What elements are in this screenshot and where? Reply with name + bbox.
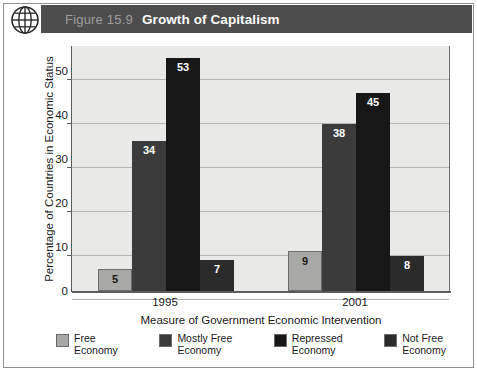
y-tick-mark-30	[67, 167, 72, 168]
plot-area: 5 34 53 7 9 38 45 8	[72, 46, 450, 291]
bar-2001-repressed: 45	[356, 93, 390, 291]
bar-label: 8	[390, 259, 424, 271]
figure-number: Figure 15.9	[65, 12, 133, 27]
x-axis-line	[72, 291, 451, 293]
legend-item-mostly-free-economy: Mostly Free Economy	[159, 333, 232, 359]
bar-label: 5	[99, 273, 131, 285]
y-tick-mark-50	[67, 79, 72, 80]
gridline-30	[72, 167, 449, 168]
x-tick-label-2001: 2001	[315, 296, 395, 308]
bar-label: 34	[132, 144, 166, 156]
y-tick-label: 10	[46, 241, 68, 253]
y-tick-label: 20	[46, 197, 68, 209]
y-tick-mark-20	[67, 211, 72, 212]
y-tick-label: 50	[46, 65, 68, 77]
legend-swatch-icon	[384, 334, 397, 347]
bar-label: 45	[356, 96, 390, 108]
figure-title: Growth of Capitalism	[142, 12, 280, 27]
bar-label: 38	[322, 127, 356, 139]
bar-2001-not-free: 8	[390, 256, 424, 291]
legend-swatch-icon	[159, 334, 172, 347]
legend-item-repressed-economy: Repressed Economy	[274, 333, 343, 359]
gridline-40	[72, 123, 449, 124]
bar-label: 7	[200, 263, 234, 275]
bar-label: 9	[289, 255, 321, 267]
legend-label: Not Free Economy	[402, 333, 446, 356]
legend-item-free-economy: Free Economy	[56, 333, 118, 359]
bar-1995-mostly-free: 34	[132, 141, 166, 291]
y-tick-label: 40	[46, 109, 68, 121]
bar-1995-not-free: 7	[200, 260, 234, 291]
x-axis-title: Measure of Government Economic Intervent…	[72, 314, 450, 326]
y-tick-label: 30	[46, 153, 68, 165]
bar-1995-repressed: 53	[166, 58, 200, 291]
figure-container: Figure 15.9 Growth of Capitalism Percent…	[0, 0, 477, 371]
chart-canvas: Percentage of Countries in Economic Stat…	[8, 38, 469, 323]
y-tick-label: 0	[46, 285, 68, 297]
y-axis-title-container: Percentage of Countries in Economic Stat…	[8, 46, 30, 291]
bar-1995-free: 5	[98, 269, 132, 291]
y-tick-mark-10	[67, 255, 72, 256]
gridline-50	[72, 79, 449, 80]
bar-label: 53	[166, 61, 200, 73]
legend-swatch-icon	[56, 334, 69, 347]
legend-label: Mostly Free Economy	[177, 333, 232, 356]
legend-swatch-icon	[274, 334, 287, 347]
y-tick-mark-40	[67, 123, 72, 124]
globe-icon	[8, 4, 42, 36]
x-tick-label-1995: 1995	[125, 296, 205, 308]
legend-label: Repressed Economy	[292, 333, 343, 356]
figure-header-band: Figure 15.9 Growth of Capitalism	[41, 5, 472, 33]
bar-2001-free: 9	[288, 251, 322, 291]
legend-item-not-free-economy: Not Free Economy	[384, 333, 446, 359]
bar-2001-mostly-free: 38	[322, 124, 356, 291]
legend-label: Free Economy	[74, 333, 118, 356]
gridline-20	[72, 211, 449, 212]
chart-legend: Free Economy Mostly Free Economy Repress…	[56, 333, 446, 359]
